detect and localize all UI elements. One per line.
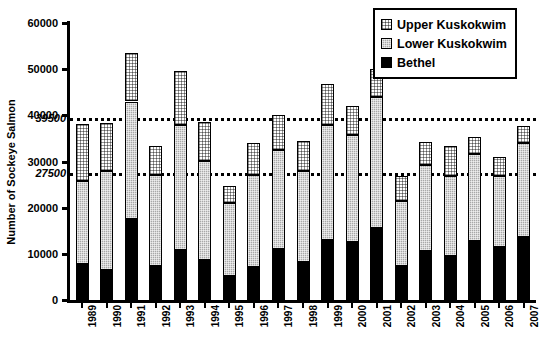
bar-segment-bethel xyxy=(100,270,113,300)
bar-group xyxy=(100,123,113,300)
x-axis-tick xyxy=(302,302,304,308)
bar-segment-bethel xyxy=(346,242,359,300)
bar-group xyxy=(395,176,408,300)
y-axis-tick: 10000 xyxy=(62,253,68,256)
x-axis-tick xyxy=(228,302,230,308)
bar-segment-lower-kuskokwim xyxy=(174,125,187,250)
bar-segment-upper-kuskokwim xyxy=(76,124,89,181)
legend-label: Upper Kuskokwim xyxy=(397,18,506,32)
bar-segment-upper-kuskokwim xyxy=(149,146,162,175)
x-axis-tick xyxy=(449,302,451,308)
x-axis-tick-label: 2002 xyxy=(406,305,417,327)
bar-group xyxy=(223,186,236,300)
x-axis-tick xyxy=(179,302,181,308)
y-axis-minor-tick-label: 27500 xyxy=(4,167,66,179)
bar-segment-bethel xyxy=(395,266,408,300)
bar-segment-upper-kuskokwim xyxy=(174,71,187,125)
x-axis-tick xyxy=(253,302,255,308)
bar-segment-upper-kuskokwim xyxy=(419,142,432,165)
bar-segment-bethel xyxy=(444,256,457,300)
bar-segment-lower-kuskokwim xyxy=(517,143,530,237)
y-axis-tick-label: 50000 xyxy=(27,63,58,75)
bar-segment-lower-kuskokwim xyxy=(419,165,432,251)
x-axis-tick-label: 1990 xyxy=(112,305,123,327)
bar-segment-bethel xyxy=(272,249,285,300)
bar-segment-upper-kuskokwim xyxy=(346,106,359,135)
bar-segment-lower-kuskokwim xyxy=(149,175,162,266)
legend-label: Lower Kuskokwim xyxy=(397,37,507,51)
x-axis-tick xyxy=(376,302,378,308)
bar-segment-bethel xyxy=(419,251,432,300)
bar-group xyxy=(125,53,138,300)
x-axis-tick xyxy=(81,302,83,308)
x-axis-tick-label: 2003 xyxy=(431,305,442,327)
x-axis-tick xyxy=(277,302,279,308)
legend-swatch-upper xyxy=(381,19,392,30)
y-axis-tick: 60000 xyxy=(62,22,68,25)
bar-segment-upper-kuskokwim xyxy=(468,137,481,154)
bar-group xyxy=(517,126,530,301)
x-axis-tick-label: 1999 xyxy=(333,305,344,327)
y-axis-minor-tick-label: 39500 xyxy=(4,112,66,124)
bar-segment-lower-kuskokwim xyxy=(468,154,481,241)
x-axis-tick xyxy=(523,302,525,308)
x-axis-tick-label: 1998 xyxy=(308,305,319,327)
bar-segment-bethel xyxy=(493,247,506,300)
x-axis-tick xyxy=(498,302,500,308)
bar-segment-lower-kuskokwim xyxy=(395,201,408,267)
bar-group xyxy=(198,122,211,300)
x-axis-tick-label: 2005 xyxy=(480,305,491,327)
bar-segment-upper-kuskokwim xyxy=(223,186,236,202)
bar-segment-lower-kuskokwim xyxy=(493,176,506,247)
bar-group xyxy=(149,146,162,300)
bar-group xyxy=(76,124,89,300)
bar-segment-upper-kuskokwim xyxy=(321,84,334,124)
bar-group xyxy=(272,115,285,300)
bar-group xyxy=(493,157,506,300)
x-axis-tick xyxy=(204,302,206,308)
bar-segment-bethel xyxy=(198,260,211,300)
bar-segment-lower-kuskokwim xyxy=(198,161,211,260)
bar-group xyxy=(321,84,334,300)
chart-figure: Number of Sockeye Salmon 010000200003000… xyxy=(0,0,545,344)
bar-segment-lower-kuskokwim xyxy=(444,176,457,255)
legend-label: Bethel xyxy=(397,56,435,70)
bar-segment-lower-kuskokwim xyxy=(297,171,310,262)
bar-segment-bethel xyxy=(149,266,162,300)
x-axis-tick-label: 2001 xyxy=(382,305,393,327)
x-axis-tick xyxy=(155,302,157,308)
x-axis-tick-label: 1997 xyxy=(283,305,294,327)
reference-line xyxy=(70,118,536,121)
bar-segment-bethel xyxy=(223,276,236,300)
y-axis-tick: 0 xyxy=(62,299,68,302)
y-axis-tick-label: 0 xyxy=(52,294,58,306)
bar-segment-upper-kuskokwim xyxy=(198,122,211,161)
bar-segment-lower-kuskokwim xyxy=(321,125,334,241)
x-axis-tick-label: 1995 xyxy=(234,305,245,327)
x-axis-tick xyxy=(425,302,427,308)
bar-segment-lower-kuskokwim xyxy=(370,97,383,228)
bar-segment-upper-kuskokwim xyxy=(444,146,457,176)
x-axis-tick-label: 2007 xyxy=(529,305,540,327)
bar-segment-bethel xyxy=(517,237,530,300)
bar-segment-upper-kuskokwim xyxy=(395,176,408,200)
bar-group xyxy=(419,142,432,300)
bar-segment-lower-kuskokwim xyxy=(125,102,138,219)
chart-legend: Upper KuskokwimLower KuskokwimBethel xyxy=(373,8,517,79)
bar-group xyxy=(297,141,310,300)
bar-segment-upper-kuskokwim xyxy=(272,115,285,150)
x-axis-tick xyxy=(400,302,402,308)
bar-segment-bethel xyxy=(468,241,481,300)
bar-segment-bethel xyxy=(125,219,138,300)
y-axis-tick: 50000 xyxy=(62,68,68,71)
bar-segment-lower-kuskokwim xyxy=(247,175,260,267)
x-axis-tick xyxy=(327,302,329,308)
y-axis-tick-label: 60000 xyxy=(27,17,58,29)
bar-group xyxy=(468,137,481,300)
x-axis-tick xyxy=(474,302,476,308)
bar-segment-bethel xyxy=(174,250,187,300)
legend-item: Lower Kuskokwim xyxy=(381,34,507,53)
y-axis-tick: 20000 xyxy=(62,207,68,210)
legend-swatch-lower xyxy=(381,38,392,49)
y-axis-tick: 30000 xyxy=(62,161,68,164)
